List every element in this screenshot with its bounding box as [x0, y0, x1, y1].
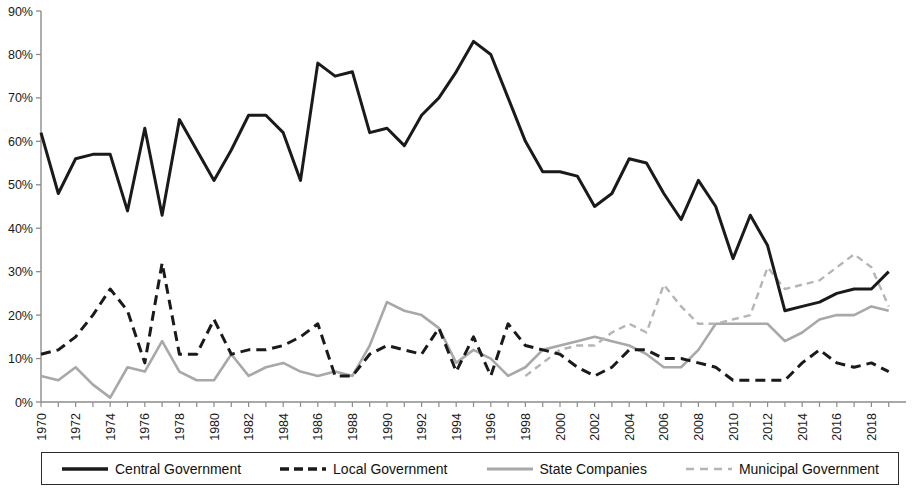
series-line-local-government	[41, 263, 889, 380]
y-tick-label: 60%	[8, 135, 33, 149]
y-tick-label: 10%	[8, 352, 33, 366]
x-tick-label: 2006	[657, 413, 671, 441]
line-chart-plot: 0%10%20%30%40%50%60%70%80%90% 1970197219…	[0, 0, 918, 491]
x-axis-ticks	[41, 402, 889, 407]
legend-swatch-dashed-gray	[685, 463, 733, 475]
x-tick-label: 1994	[450, 413, 464, 441]
legend-label-local-government: Local Government	[333, 461, 447, 477]
legend-item-state-companies: State Companies	[486, 461, 647, 477]
x-tick-label: 2002	[588, 413, 602, 441]
legend-label-municipal-government: Municipal Government	[739, 461, 879, 477]
x-tick-label: 1996	[484, 413, 498, 441]
x-tick-label: 1990	[381, 413, 395, 441]
y-tick-label: 20%	[8, 309, 33, 323]
legend-swatch-solid-gray	[486, 463, 534, 475]
legend-item-local-government: Local Government	[279, 461, 447, 477]
x-tick-label: 2004	[623, 413, 637, 441]
legend-swatch-dashed-black	[279, 463, 327, 475]
x-tick-label: 2012	[761, 413, 775, 441]
x-tick-label: 1986	[311, 413, 325, 441]
legend-label-central-government: Central Government	[115, 461, 241, 477]
y-tick-label: 70%	[8, 91, 33, 105]
x-tick-label: 1992	[415, 413, 429, 441]
legend-item-municipal-government: Municipal Government	[685, 461, 879, 477]
y-tick-label: 0%	[15, 396, 33, 410]
x-tick-label: 1978	[173, 413, 187, 441]
legend-swatch-solid-black	[61, 463, 109, 475]
x-tick-label: 2014	[796, 413, 810, 441]
legend-label-state-companies: State Companies	[540, 461, 647, 477]
x-tick-label: 1982	[242, 413, 256, 441]
x-tick-label: 2000	[554, 413, 568, 441]
x-tick-label: 1998	[519, 413, 533, 441]
chart-figure: 0%10%20%30%40%50%60%70%80%90% 1970197219…	[0, 0, 918, 491]
x-tick-label: 1980	[208, 413, 222, 441]
y-tick-label: 30%	[8, 265, 33, 279]
legend-item-central-government: Central Government	[61, 461, 241, 477]
series-line-state-companies	[41, 302, 889, 398]
y-tick-label: 50%	[8, 178, 33, 192]
y-tick-label: 80%	[8, 48, 33, 62]
series-line-central-government	[41, 41, 889, 310]
y-tick-label: 40%	[8, 222, 33, 236]
x-tick-label: 1976	[138, 413, 152, 441]
chart-legend: Central Government Local Government Stat…	[41, 452, 899, 485]
x-tick-label: 1984	[277, 413, 291, 441]
x-tick-label: 1970	[35, 413, 49, 441]
y-axis-labels: 0%10%20%30%40%50%60%70%80%90%	[8, 5, 33, 410]
x-tick-label: 2016	[830, 413, 844, 441]
data-series-group	[41, 41, 889, 397]
x-tick-label: 2008	[692, 413, 706, 441]
x-tick-label: 1972	[69, 413, 83, 441]
x-tick-label: 2010	[727, 413, 741, 441]
y-tick-label: 90%	[8, 5, 33, 19]
y-axis-ticks	[36, 11, 41, 402]
x-tick-label: 2018	[865, 413, 879, 441]
x-tick-label: 1988	[346, 413, 360, 441]
x-axis-labels: 1970197219741976197819801982198419861988…	[35, 413, 879, 441]
x-tick-label: 1974	[104, 413, 118, 441]
